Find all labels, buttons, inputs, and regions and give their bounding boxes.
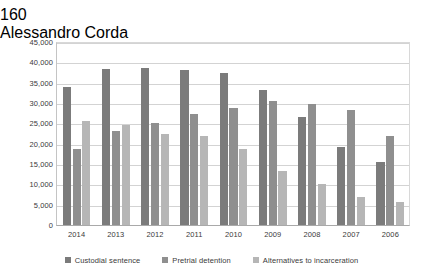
x-axis-tick-label: 2009 <box>253 230 292 239</box>
bar <box>386 136 394 225</box>
bar-group <box>292 42 331 225</box>
x-axis: 201420132012201120102009200820072006 <box>57 230 410 246</box>
bar <box>151 123 159 225</box>
bar-group <box>253 42 292 225</box>
bar <box>190 114 198 225</box>
legend-swatch-icon <box>253 257 259 263</box>
y-axis-tick-label: 35,000 <box>3 78 53 87</box>
bar-chart-figure: 05,00010,00015,00020,00025,00030,00035,0… <box>0 34 423 280</box>
legend-label: Pretrial detention <box>172 256 231 265</box>
bar <box>180 70 188 225</box>
bar-group <box>371 42 410 225</box>
y-axis-tick-label: 10,000 <box>3 180 53 189</box>
x-axis-tick-label: 2014 <box>57 230 96 239</box>
bar-group <box>332 42 371 225</box>
bar <box>220 73 228 225</box>
chart-legend: Custodial sentencePretrial detentionAlte… <box>0 252 423 268</box>
bar <box>141 68 149 225</box>
y-axis-tick-label: 20,000 <box>3 139 53 148</box>
x-axis-tick-label: 2013 <box>96 230 135 239</box>
y-axis-tick-label: 45,000 <box>3 38 53 47</box>
legend-swatch-icon <box>162 257 168 263</box>
bar <box>112 131 120 225</box>
x-axis-tick-label: 2007 <box>332 230 371 239</box>
legend-label: Custodial sentence <box>75 256 141 265</box>
bar <box>63 87 71 225</box>
y-axis-tick-label: 0 <box>3 221 53 230</box>
bar <box>122 125 130 225</box>
bar <box>82 121 90 226</box>
legend-item: Custodial sentence <box>65 256 141 265</box>
legend-swatch-icon <box>65 257 71 263</box>
y-axis-tick-label: 5,000 <box>3 200 53 209</box>
bar <box>200 136 208 225</box>
bar <box>357 197 365 225</box>
bar-group <box>57 42 96 225</box>
x-axis-tick-label: 2010 <box>214 230 253 239</box>
bar <box>259 90 267 225</box>
x-axis-tick-label: 2008 <box>292 230 331 239</box>
y-axis-tick-label: 40,000 <box>3 58 53 67</box>
x-axis-tick-label: 2011 <box>175 230 214 239</box>
x-axis-tick-label: 2012 <box>135 230 174 239</box>
bar <box>161 134 169 225</box>
y-axis-tick-label: 25,000 <box>3 119 53 128</box>
legend-item: Alternatives to incarceration <box>253 256 358 265</box>
legend-label: Alternatives to incarceration <box>263 256 358 265</box>
y-axis-tick-label: 15,000 <box>3 160 53 169</box>
bar-group <box>135 42 174 225</box>
bar <box>347 110 355 225</box>
bar <box>73 149 81 225</box>
bar <box>229 108 237 225</box>
bar-group <box>214 42 253 225</box>
running-header: 160 Alessandro Corda <box>0 6 423 28</box>
bar <box>376 162 384 225</box>
bars-layer <box>57 42 410 225</box>
bar <box>239 149 247 225</box>
page-number: 160 <box>0 6 423 24</box>
bar <box>396 202 404 225</box>
legend-item: Pretrial detention <box>162 256 231 265</box>
bar <box>308 104 316 225</box>
bar <box>278 171 286 225</box>
bar <box>337 147 345 225</box>
bar <box>102 69 110 225</box>
bar <box>298 117 306 225</box>
x-axis-tick-label: 2006 <box>371 230 410 239</box>
y-axis: 05,00010,00015,00020,00025,00030,00035,0… <box>0 42 53 226</box>
bar-group <box>175 42 214 225</box>
bar <box>269 101 277 225</box>
bar-group <box>96 42 135 225</box>
y-axis-tick-label: 30,000 <box>3 99 53 108</box>
bar <box>318 184 326 225</box>
